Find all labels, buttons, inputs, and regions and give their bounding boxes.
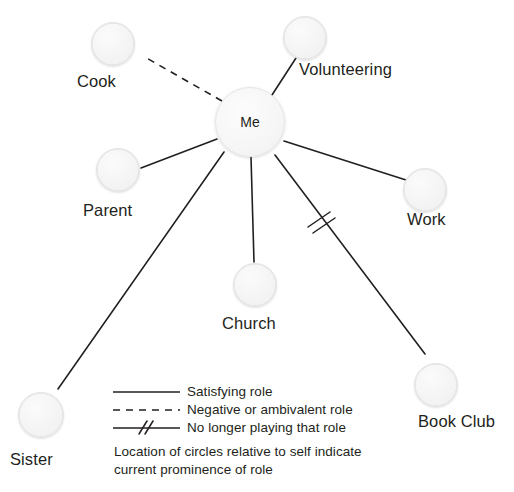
node-church[interactable] bbox=[233, 263, 277, 307]
legend-caption-line-1: Location of circles relative to self ind… bbox=[114, 444, 362, 459]
edge-sister bbox=[58, 152, 224, 389]
node-cook-label: Cook bbox=[77, 72, 116, 91]
edge-work bbox=[284, 141, 406, 180]
legend-caption-line-2: current prominence of role bbox=[114, 462, 273, 477]
node-sister-label: Sister bbox=[10, 450, 53, 469]
legend-label-no-longer: No longer playing that role bbox=[187, 420, 346, 435]
legend-label-negative: Negative or ambivalent role bbox=[187, 402, 353, 417]
node-parent-label: Parent bbox=[83, 201, 132, 220]
edge-church bbox=[251, 157, 254, 262]
node-sister[interactable] bbox=[18, 392, 64, 438]
node-me-label: Me bbox=[240, 114, 260, 130]
node-work-label: Work bbox=[407, 210, 446, 229]
node-work[interactable] bbox=[403, 168, 447, 212]
edge-volunteering bbox=[272, 58, 296, 95]
node-volunteering[interactable] bbox=[283, 16, 327, 60]
node-book-club[interactable] bbox=[414, 363, 458, 407]
role-map-diagram: Me Cook Volunteering Parent Work Church … bbox=[0, 0, 514, 492]
node-book-club-label: Book Club bbox=[418, 412, 495, 431]
node-me[interactable]: Me bbox=[215, 87, 285, 157]
legend-label-satisfying: Satisfying role bbox=[187, 384, 273, 399]
node-church-label: Church bbox=[222, 314, 276, 333]
node-cook[interactable] bbox=[91, 22, 135, 66]
edge-cook bbox=[143, 56, 222, 101]
node-parent[interactable] bbox=[96, 148, 140, 192]
edge-parent bbox=[141, 139, 217, 168]
legend-line-samples bbox=[113, 392, 180, 434]
node-volunteering-label: Volunteering bbox=[299, 60, 392, 79]
